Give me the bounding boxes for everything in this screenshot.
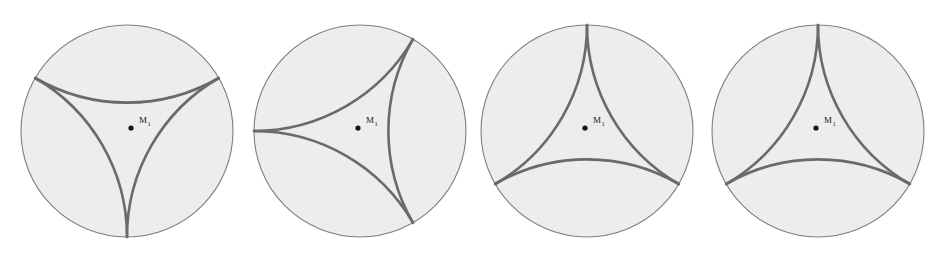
label-subscript-4: 1 — [832, 120, 835, 127]
disks-group: M1M1M1M1 — [21, 25, 924, 237]
disk-4: M1 — [712, 25, 924, 237]
disk-boundary-circle-4 — [712, 25, 924, 237]
hyperbolic-disks-figure: M1M1M1M1 — [0, 0, 950, 254]
disk-1: M1 — [21, 25, 233, 237]
disk-boundary-circle-2 — [254, 25, 466, 237]
label-subscript-1: 1 — [147, 120, 150, 127]
center-point-dot-4 — [813, 125, 818, 130]
label-subscript-2: 1 — [374, 120, 377, 127]
center-point-dot-1 — [128, 125, 133, 130]
label-subscript-3: 1 — [601, 120, 604, 127]
disk-2: M1 — [254, 25, 466, 237]
label-base-3: M — [593, 115, 601, 125]
figure-canvas: M1M1M1M1 — [0, 0, 950, 254]
label-base-4: M — [824, 115, 832, 125]
center-point-dot-2 — [355, 125, 360, 130]
disk-3: M1 — [481, 25, 693, 237]
disk-boundary-circle-1 — [21, 25, 233, 237]
label-base-1: M — [139, 115, 147, 125]
disk-boundary-circle-3 — [481, 25, 693, 237]
label-base-2: M — [366, 115, 374, 125]
center-point-dot-3 — [582, 125, 587, 130]
